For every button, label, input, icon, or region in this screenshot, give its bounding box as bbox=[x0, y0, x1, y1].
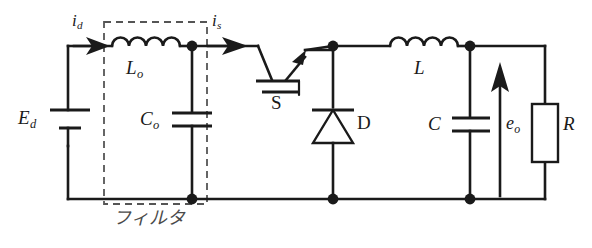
label-output-capacitor: C bbox=[428, 114, 441, 133]
schematic-svg bbox=[0, 0, 592, 248]
switch-left-lead bbox=[258, 46, 272, 80]
label-switch: S bbox=[271, 93, 282, 112]
label-load-resistor: R bbox=[563, 114, 575, 133]
label-filter-capacitor: Co bbox=[140, 109, 159, 128]
load-resistor-box bbox=[532, 104, 558, 162]
circuit-diagram: id is Lo L Ed Co S D C eo R フィルタ bbox=[0, 0, 592, 248]
label-main-inductor: L bbox=[414, 58, 425, 77]
label-source-voltage: Ed bbox=[18, 108, 36, 127]
main-inductor-coil bbox=[390, 38, 458, 47]
filter-inductor-coil bbox=[112, 38, 180, 47]
label-filter-inductor: Lo bbox=[126, 58, 143, 77]
label-switch-current: is bbox=[212, 12, 221, 29]
diode-triangle bbox=[313, 110, 353, 143]
label-filter-caption: フィルタ bbox=[113, 209, 185, 227]
label-output-voltage: eo bbox=[506, 114, 520, 132]
label-input-current: id bbox=[72, 12, 83, 29]
label-diode: D bbox=[357, 113, 371, 132]
switch-arrowhead bbox=[292, 50, 306, 65]
